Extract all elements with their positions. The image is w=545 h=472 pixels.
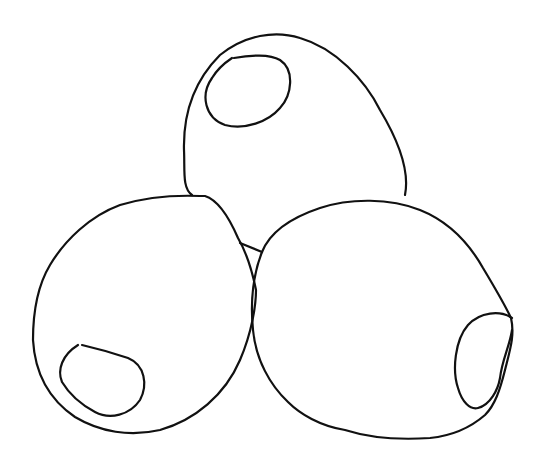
olive-drawing: three olives line drawing bbox=[0, 0, 545, 472]
top-olive bbox=[184, 34, 406, 195]
right-olive-pimento bbox=[455, 313, 512, 408]
olives-illustration bbox=[0, 0, 545, 472]
left-olive-pimento bbox=[60, 345, 144, 416]
top-olive-pimento bbox=[206, 56, 291, 127]
right-olive bbox=[252, 201, 513, 439]
left-olive bbox=[33, 196, 262, 433]
